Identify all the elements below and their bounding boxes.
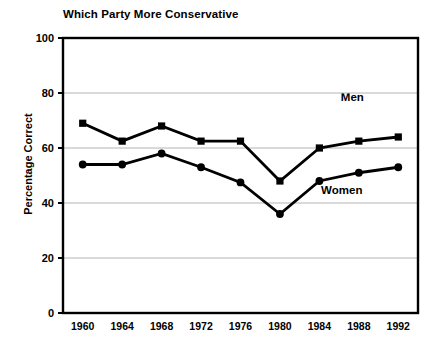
- data-point-marker: [395, 133, 402, 140]
- data-point-marker: [79, 120, 86, 127]
- plot-area: [0, 0, 437, 353]
- gridlines: [63, 93, 418, 258]
- data-point-marker: [119, 138, 126, 145]
- data-point-marker: [158, 150, 166, 158]
- plot-frame: [63, 38, 418, 313]
- series-line-men: [83, 123, 399, 181]
- data-point-marker: [237, 138, 244, 145]
- data-point-marker: [79, 161, 87, 169]
- data-point-marker: [276, 177, 283, 184]
- data-point-marker: [315, 177, 323, 185]
- data-point-marker: [197, 163, 205, 171]
- data-point-marker: [276, 210, 284, 218]
- axis-frame: [58, 38, 418, 313]
- data-point-marker: [197, 138, 204, 145]
- chart-container: Which Party More Conservative Percentage…: [0, 0, 437, 353]
- data-point-marker: [158, 122, 165, 129]
- data-point-marker: [316, 144, 323, 151]
- data-point-marker: [355, 138, 362, 145]
- data-point-marker: [237, 178, 245, 186]
- data-point-marker: [355, 169, 363, 177]
- data-point-marker: [118, 161, 126, 169]
- data-point-marker: [394, 163, 402, 171]
